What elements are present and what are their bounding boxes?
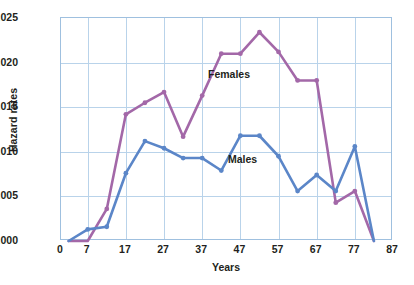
data-point-males: [238, 133, 243, 138]
data-point-females: [219, 51, 224, 56]
data-point-males: [181, 156, 186, 161]
series-label-females: Females: [208, 68, 250, 80]
x-tick-label: 67: [301, 243, 331, 255]
data-point-females: [123, 112, 128, 117]
data-point-females: [143, 100, 148, 105]
data-point-females: [104, 206, 109, 211]
y-tick-label: .005: [0, 189, 18, 201]
x-tick-label: 17: [110, 243, 140, 255]
x-tick-label: 27: [148, 243, 178, 255]
data-point-males: [314, 173, 319, 178]
x-tick-label: 0: [45, 243, 75, 255]
data-point-males: [276, 154, 281, 159]
series-line-females: [69, 32, 374, 241]
y-tick-label: .010: [0, 145, 18, 157]
series-container: [61, 18, 393, 241]
y-tick-label: .020: [0, 56, 18, 68]
data-point-females: [295, 78, 300, 83]
data-point-males: [143, 139, 148, 144]
data-point-males: [123, 171, 128, 176]
data-point-males: [295, 189, 300, 194]
x-tick-label: 57: [263, 243, 293, 255]
x-tick-label: 7: [72, 243, 102, 255]
data-point-females: [314, 78, 319, 83]
y-tick-label: .000: [0, 234, 18, 246]
data-point-females: [333, 200, 338, 205]
data-point-females: [181, 134, 186, 139]
data-point-females: [200, 93, 205, 98]
x-tick-label: 47: [224, 243, 254, 255]
data-point-males: [219, 168, 224, 173]
x-tick-label: 77: [339, 243, 369, 255]
data-point-females: [276, 50, 281, 55]
y-axis-title: Hazard rates: [0, 0, 26, 240]
hazard-rates-line-chart: Hazard rates .000.005.010.015.020.025 07…: [0, 0, 414, 285]
data-point-females: [162, 90, 167, 95]
y-tick-label: .015: [0, 100, 18, 112]
data-point-males: [333, 189, 338, 194]
data-point-females: [238, 51, 243, 56]
y-tick-label: .025: [0, 11, 18, 23]
plot-area: [60, 17, 392, 240]
x-tick-label: 87: [377, 243, 407, 255]
data-point-males: [257, 133, 262, 138]
data-point-females: [257, 30, 262, 35]
series-label-males: Males: [228, 153, 257, 165]
data-point-males: [104, 224, 109, 229]
data-point-males: [85, 227, 90, 232]
data-point-males: [352, 144, 357, 149]
data-point-males: [162, 146, 167, 151]
y-axis-title-text: Hazard rates: [7, 88, 19, 152]
data-point-females: [352, 189, 357, 194]
x-tick-label: 37: [186, 243, 216, 255]
data-point-males: [200, 156, 205, 161]
x-axis-title: Years: [60, 261, 392, 273]
